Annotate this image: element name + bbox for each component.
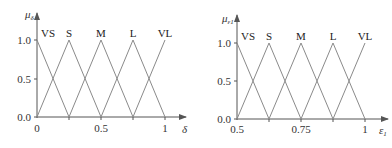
right-ylabel: με1 (221, 12, 234, 26)
right-membership-lines (237, 43, 365, 119)
left-set-m: M (96, 27, 106, 39)
left-set-l: L (130, 27, 137, 39)
right-xtick-1: 1 (362, 123, 368, 135)
left-xtick-1: 1 (162, 122, 168, 134)
right-xtick-075: 0.75 (291, 123, 311, 135)
left-xtick-05: 0.5 (94, 122, 108, 134)
left-ytick-05: 0.5 (17, 73, 31, 85)
left-set-vs: VS (41, 27, 55, 39)
left-xtick-0: 0 (34, 122, 40, 134)
left-set-s: S (66, 27, 72, 39)
right-ytick-05: 0.5 (217, 75, 231, 87)
figure: 1.0 0.5 0.0 0 0.5 1 μδ δ VS S M L VL (0, 0, 392, 148)
left-xlabel: δ (182, 123, 188, 135)
left-ytick-1: 1.0 (17, 34, 31, 46)
right-ytick-1: 1.0 (217, 37, 231, 49)
right-xtick-05: 0.5 (230, 123, 244, 135)
right-set-m: M (296, 30, 306, 42)
right-xlabel: ε1 (379, 124, 387, 138)
left-set-vl: VL (158, 27, 173, 39)
left-ytick-0: 0.0 (17, 111, 31, 123)
right-set-vl: VL (358, 30, 373, 42)
right-set-l: L (330, 30, 337, 42)
left-ylabel: μδ (24, 8, 35, 22)
right-chart: 1.0 0.5 0.0 0.5 0.75 1 με1 ε1 VS S M L V… (217, 12, 388, 138)
right-set-vs: VS (241, 30, 255, 42)
left-membership-lines (37, 40, 165, 117)
right-set-s: S (266, 30, 272, 42)
left-chart: 1.0 0.5 0.0 0 0.5 1 μδ δ VS S M L VL (17, 8, 188, 135)
